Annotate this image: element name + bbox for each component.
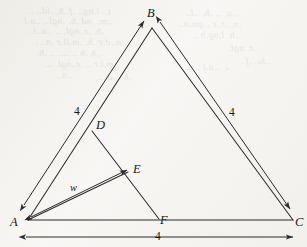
dimension-arrows (24, 21, 293, 237)
vertex-label-d: D (96, 119, 105, 132)
triangle-edges (28, 28, 293, 220)
length-label-ac: 4 (155, 231, 161, 243)
vertex-label-a: A (10, 216, 18, 229)
diagram-canvas (0, 0, 307, 247)
side-BC (152, 28, 293, 220)
dimension-BC (160, 22, 290, 209)
vertex-label-c: C (295, 216, 303, 229)
length-label-ab: 4 (74, 106, 80, 118)
vertex-label-f: F (160, 214, 168, 227)
geometry-figure: t.. l.ng.. .f .h. .id.. ....m. .nd .h. .… (0, 0, 307, 247)
segment-DF (92, 131, 159, 219)
vertex-label-b: B (147, 7, 155, 20)
side-AB (28, 28, 152, 220)
length-label-ae: w (70, 183, 77, 194)
length-label-bc: 4 (229, 107, 235, 119)
vertex-label-e: E (133, 163, 141, 176)
dimension-AB (24, 21, 144, 205)
